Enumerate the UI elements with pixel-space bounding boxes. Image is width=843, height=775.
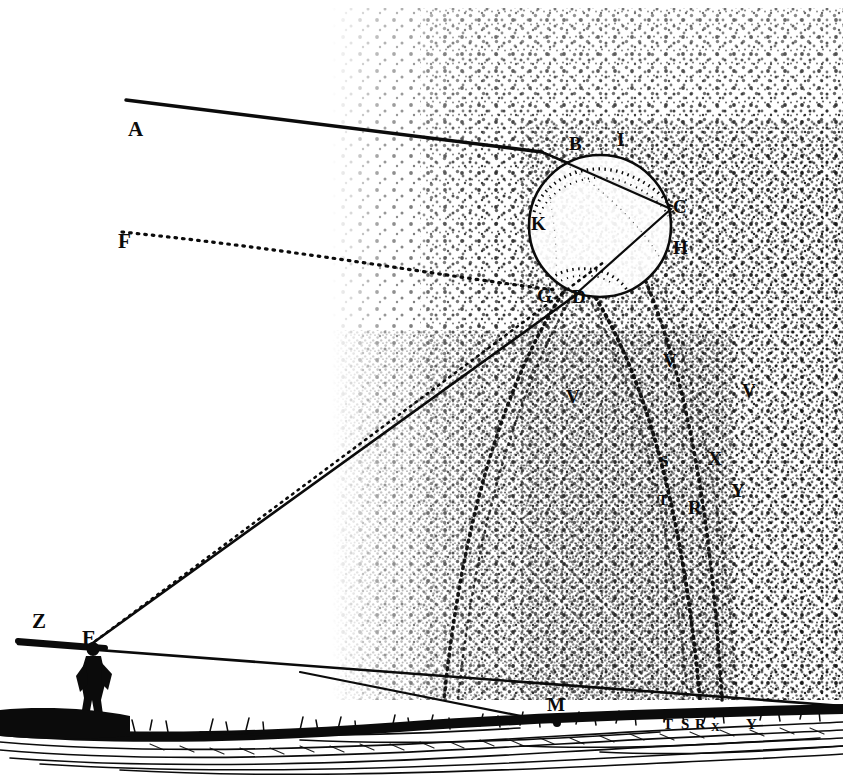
label-R: R: [688, 497, 702, 518]
label-B: B: [569, 133, 582, 154]
label-V-left: V: [566, 386, 580, 407]
label-T: T: [658, 492, 668, 508]
label-C: C: [673, 196, 687, 217]
label-ground-R: R: [695, 716, 706, 732]
label-G: G: [537, 285, 552, 306]
label-ground-Y: Y: [746, 716, 757, 732]
label-E: E: [82, 626, 96, 650]
label-F: F: [118, 229, 131, 253]
label-X: X: [708, 448, 722, 469]
label-H: H: [673, 237, 688, 258]
label-A: A: [128, 117, 144, 141]
rain-shower-field: [332, 8, 843, 700]
label-K: K: [531, 213, 546, 234]
label-D: D: [572, 286, 586, 307]
droplet-outline: [529, 155, 671, 297]
rainbow-diagram-figure: A F B I C H K G D E Z M V V V S T X R Y …: [0, 0, 843, 775]
label-I: I: [617, 129, 624, 150]
label-S: S: [660, 453, 668, 469]
label-ground-X: X: [711, 720, 720, 734]
label-ground-T: T: [663, 716, 673, 732]
label-V-mid: V: [663, 350, 677, 371]
label-ground-S: S: [681, 716, 689, 732]
label-Z: Z: [32, 609, 46, 633]
label-M: M: [547, 694, 565, 715]
label-V-right: V: [742, 380, 756, 401]
label-Y: Y: [731, 480, 745, 501]
